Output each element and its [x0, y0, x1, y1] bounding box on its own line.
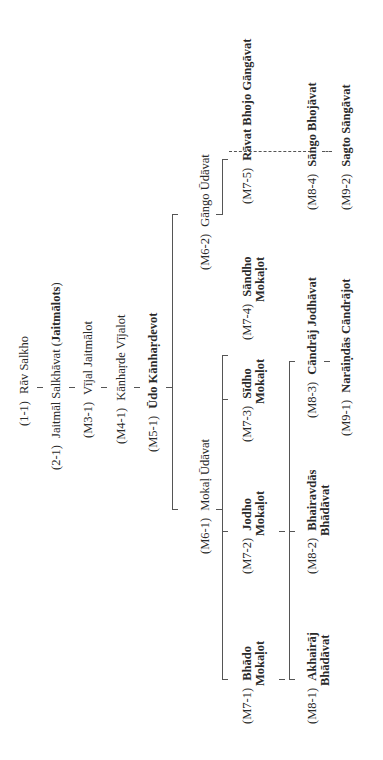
- node-code: (M8-4): [305, 174, 319, 210]
- node-name-after: ): [49, 282, 63, 286]
- branch-line-gen6: [172, 214, 173, 510]
- node-code: (M7-3): [240, 406, 254, 442]
- connector: [222, 159, 228, 160]
- dashed-connector-m8-4-to-m9-2: [322, 151, 332, 152]
- connector: [324, 361, 330, 362]
- node-name-line2: Mokaḷot: [254, 256, 267, 340]
- branch-line-gen8-m7-1: [289, 532, 290, 680]
- branch-line-gen8-m7-2: [289, 362, 290, 532]
- node-M6-2: (M6-2) Gāngo Ūdāvat: [199, 154, 212, 270]
- node-name-bold: Jaitmālots: [49, 287, 63, 343]
- node-name: Sagto Sāngāvat: [339, 84, 353, 166]
- node-name-line2: Mokaḷot: [254, 491, 267, 574]
- node-M7-3: (M7-3) Sīdho Mokaḷot: [241, 359, 267, 442]
- connector: [279, 531, 285, 532]
- node-M8-2: (M8-2) Bhairavdās Bhādāvat: [306, 470, 332, 574]
- node-name: Akhairāj: [305, 632, 319, 681]
- node-code: (M8-2): [305, 538, 319, 574]
- node-name: Kānhaṛde Vījalot: [114, 315, 128, 401]
- connector: [222, 679, 228, 680]
- node-M4-1: (M4-1) Kānhaṛde Vījalot: [115, 315, 128, 444]
- node-name-line2: Bhādāvat: [319, 470, 332, 574]
- node-2-1: (2-1) Jaitmāl Salkhāvat (Jaitmālots): [50, 282, 63, 470]
- connector: [172, 214, 178, 215]
- node-code: (M4-1): [114, 408, 128, 444]
- node-code: (M7-4): [240, 304, 254, 340]
- connector: [289, 679, 295, 680]
- node-name: Sāngo Bhojāvat: [305, 82, 319, 166]
- node-code: (M6-2): [198, 234, 212, 270]
- node-M7-4: (M7-4) Sāndho Mokaḷot: [241, 256, 267, 340]
- node-name-line2: Bhādāvat: [319, 632, 332, 724]
- connector: [222, 399, 228, 400]
- genealogy-tree: (1-1) Rāv Salkho (2-1) Jaitmāl Salkhāvat…: [0, 0, 383, 760]
- node-name: Rāv Salkho: [17, 336, 31, 394]
- node-M8-3: (M8-3) Cāndrāj Jodhāvat: [306, 277, 319, 418]
- node-name: Jaitmāl Salkhāvat (: [49, 342, 63, 438]
- node-name: Jodho: [240, 498, 254, 531]
- node-name: Narāiṇdās Cāndrājot: [339, 279, 353, 393]
- node-name-line2: Mokaḷot: [254, 359, 267, 442]
- node-name: Rāvat Bhojo Gāngāvat: [240, 39, 254, 161]
- node-name: Bhairavdās: [305, 470, 319, 531]
- node-M3-1: (M3-1) Vījal Jaitmālot: [82, 321, 95, 438]
- node-M8-1: (M8-1) Akhairāj Bhādāvat: [306, 632, 332, 724]
- branch-line-gen7-m6-2: [222, 160, 223, 215]
- connector: [289, 361, 295, 362]
- node-name: Cāndrāj Jodhāvat: [305, 277, 319, 375]
- node-code: (M3-1): [81, 402, 95, 438]
- branch-line-gen7-m6-1: [222, 356, 223, 680]
- node-code: (1-1): [17, 401, 31, 426]
- node-M7-2: (M7-2) Jodho Mokaḷot: [241, 491, 267, 574]
- node-M8-4: (M8-4) Sāngo Bhojāvat: [306, 82, 319, 210]
- node-name: Gāngo Ūdāvat: [198, 154, 212, 227]
- connector: [222, 355, 228, 356]
- node-code: (M7-5): [240, 168, 254, 204]
- node-code: (M8-1): [305, 688, 319, 724]
- node-code: (M7-1): [240, 688, 254, 724]
- node-name: Ūdo Kānhaṛdevot: [146, 313, 160, 409]
- connector: [69, 387, 75, 388]
- node-name-line2: Mokaḷot: [254, 641, 267, 724]
- node-name: Vījal Jaitmālot: [81, 321, 95, 395]
- node-name: Sīdho: [240, 368, 254, 399]
- node-code: (M9-2): [339, 174, 353, 210]
- connector: [134, 387, 140, 388]
- node-code: (M6-1): [198, 518, 212, 554]
- connector: [101, 387, 107, 388]
- node-code: (M5-1): [146, 416, 160, 452]
- node-name: Bhādo: [240, 646, 254, 681]
- connector: [279, 679, 285, 680]
- node-M7-5: (M7-5) Rāvat Bhojo Gāngāvat: [241, 39, 254, 204]
- node-code: (2-1): [49, 445, 63, 470]
- node-M5-1: (M5-1) Ūdo Kānhaṛdevot: [147, 313, 160, 452]
- node-name: Mokaḷ Ūdāvat: [198, 439, 212, 511]
- node-M9-2: (M9-2) Sagto Sāngāvat: [340, 84, 353, 210]
- node-M7-1: (M7-1) Bhādo Mokaḷot: [241, 641, 267, 724]
- connector: [37, 387, 43, 388]
- node-code: (M7-2): [240, 538, 254, 574]
- node-name: Sāndho: [240, 256, 254, 296]
- dashed-connector-m7-5-to-m8-4: [229, 151, 311, 152]
- connector: [172, 509, 178, 510]
- connector: [222, 531, 228, 532]
- node-1-1: (1-1) Rāv Salkho: [18, 336, 31, 426]
- node-M9-1: (M9-1) Narāiṇdās Cāndrājot: [340, 279, 353, 436]
- node-code: (M8-3): [305, 382, 319, 418]
- node-M6-1: (M6-1) Mokaḷ Ūdāvat: [199, 439, 212, 554]
- node-code: (M9-1): [339, 400, 353, 436]
